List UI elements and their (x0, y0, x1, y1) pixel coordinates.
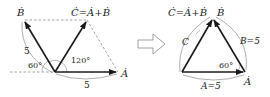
label-angle-60-right: 60° (219, 61, 233, 70)
label-vector-a-right: Ȧ (243, 76, 251, 87)
label-vector-b-right: Ḃ (216, 7, 224, 18)
arc-magnitude-a (56, 74, 117, 79)
angle-arc-60-right (236, 64, 240, 72)
label-angle-120: 120° (71, 56, 90, 65)
arc-side-a (183, 75, 244, 80)
vector-addition-diagram: Ḃ Ċ=Ȧ+Ḃ Ȧ 5 5 60° 120° Ċ=Ȧ+Ḃ Ḃ C B=5 A=5… (0, 0, 270, 97)
label-vector-b: Ḃ (16, 7, 24, 18)
label-magnitude-b: 5 (24, 46, 30, 56)
label-vector-a: Ȧ (120, 68, 128, 79)
dashed-parallelogram-side (87, 20, 118, 72)
right-arrow-icon (138, 34, 165, 54)
label-side-b: B=5 (239, 36, 260, 46)
label-angle-60: 60° (28, 61, 42, 70)
label-side-c: C (182, 37, 189, 47)
left-diagram: Ḃ Ċ=Ȧ+Ḃ Ȧ 5 5 60° 120° (10, 7, 128, 90)
label-vector-c: Ċ=Ȧ+Ḃ (71, 7, 110, 18)
label-magnitude-a: 5 (84, 80, 90, 90)
label-vector-c-right: Ċ=Ȧ+Ḃ (168, 7, 207, 18)
pointer-c-label (196, 30, 200, 34)
angle-arc-60 (42, 61, 48, 72)
label-side-a: A=5 (200, 81, 221, 91)
right-diagram: Ċ=Ȧ+Ḃ Ḃ C B=5 A=5 Ȧ 60° (168, 7, 260, 91)
